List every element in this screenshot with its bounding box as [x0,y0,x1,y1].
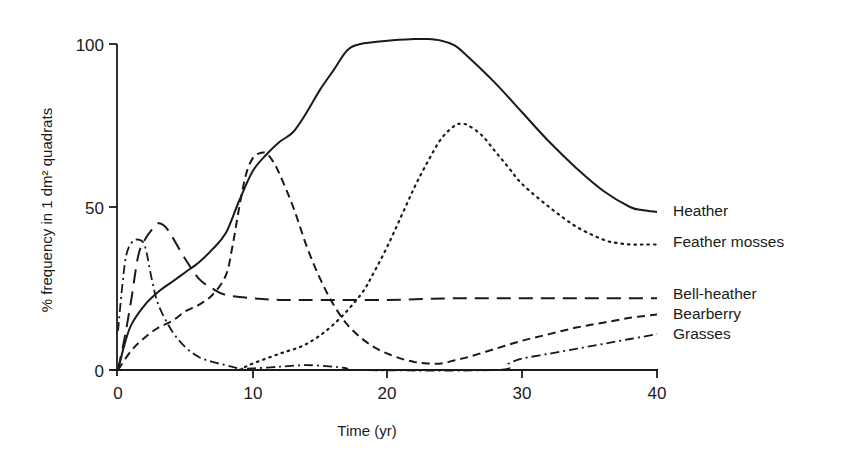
legend-label-feather-mosses: Feather mosses [673,233,784,250]
x-tick-label-30: 30 [513,384,532,403]
x-tick-label-20: 20 [378,384,397,403]
x-axis-title: Time (yr) [337,422,396,439]
y-tick-label-0: 0 [95,362,104,381]
x-tick-label-10: 10 [244,384,263,403]
legend-label-heather: Heather [673,202,728,219]
y-tick-label-50: 50 [85,199,104,218]
y-tick-label-100: 100 [76,36,104,55]
y-axis-title: % frequency in 1 dm² quadrats [38,108,55,312]
legend-label-bell-heather: Bell-heather [673,285,757,302]
series-heather-line [118,39,657,370]
chart: 100 50 0 0 10 20 30 40 Time (yr) % frequ… [0,0,841,463]
x-tick-label-0: 0 [113,384,122,403]
legend-label-bearberry: Bearberry [673,305,741,322]
series-feather-mosses-line [239,124,657,370]
x-tick-label-40: 40 [648,384,667,403]
series-lines [118,39,657,371]
legend-label-grasses: Grasses [673,325,731,342]
